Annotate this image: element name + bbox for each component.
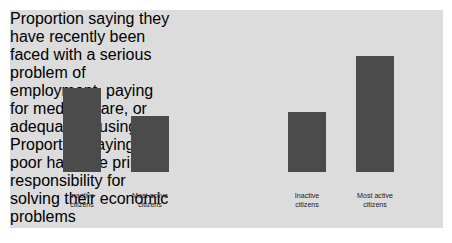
- bar-right-inactive: [288, 112, 326, 172]
- figure-container: Proportion saying they have recently bee…: [0, 0, 452, 243]
- bar-right-most-active: [356, 56, 394, 172]
- bar-label-left-inactive: Inactive citizens: [48, 192, 116, 211]
- bar-label-right-inactive: Inactive citizens: [273, 192, 341, 211]
- bar-left-inactive: [63, 88, 101, 172]
- bar-label-left-most-active: Most active citizens: [114, 192, 186, 211]
- figure-panel: Proportion saying they have recently bee…: [10, 10, 443, 228]
- bar-left-most-active: [131, 116, 169, 172]
- bar-label-right-most-active: Most active citizens: [339, 192, 411, 211]
